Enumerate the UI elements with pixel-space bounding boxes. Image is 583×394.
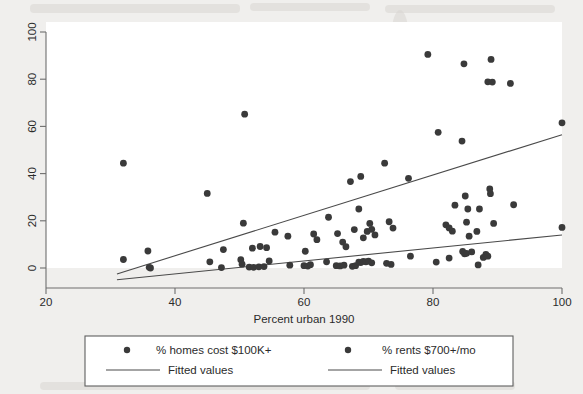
data-point xyxy=(463,219,470,226)
legend-label-homes-fit: Fitted values xyxy=(168,364,233,376)
y-tick-label: 0 xyxy=(26,265,38,271)
data-point xyxy=(357,173,364,180)
data-point xyxy=(507,80,514,87)
data-point xyxy=(351,226,358,233)
data-point xyxy=(240,220,247,227)
data-point xyxy=(476,206,483,213)
data-point xyxy=(487,190,494,197)
y-tick-label: 40 xyxy=(26,167,38,180)
data-point xyxy=(372,232,379,239)
legend-label-homes: % homes cost $100K+ xyxy=(156,344,272,356)
data-point xyxy=(466,233,473,240)
data-point xyxy=(559,224,566,231)
data-point xyxy=(435,129,442,136)
data-point xyxy=(462,193,469,200)
data-point xyxy=(307,261,314,268)
data-point xyxy=(461,60,468,67)
data-point xyxy=(405,175,412,182)
data-point xyxy=(559,119,566,126)
data-point xyxy=(510,201,517,208)
data-point xyxy=(390,225,397,232)
data-point xyxy=(347,178,354,185)
data-point xyxy=(261,263,268,270)
data-point xyxy=(459,138,466,145)
chart-legend: % homes cost $100K+ Fitted values % rent… xyxy=(85,336,513,386)
data-point xyxy=(475,262,482,269)
data-point xyxy=(147,265,154,272)
data-point xyxy=(386,218,393,225)
y-tick-label: 80 xyxy=(26,73,38,86)
data-point xyxy=(484,253,491,260)
x-axis-title: Percent urban 1990 xyxy=(253,313,354,325)
x-tick-label: 40 xyxy=(169,296,182,308)
data-point xyxy=(257,243,264,250)
data-point xyxy=(266,258,273,265)
data-point xyxy=(366,220,373,227)
legend-label-rents-fit: Fitted values xyxy=(390,364,455,376)
data-point xyxy=(433,259,440,266)
data-point xyxy=(355,206,362,213)
legend-marker-rents xyxy=(345,347,351,353)
data-point xyxy=(302,248,309,255)
data-point xyxy=(424,51,431,58)
data-point xyxy=(446,255,453,262)
scatter-plot-svg: 0 20 40 60 80 100 20 40 60 80 100 Percen… xyxy=(0,0,583,394)
data-point xyxy=(468,249,475,256)
data-point xyxy=(206,258,213,265)
data-point xyxy=(488,56,495,63)
data-point xyxy=(381,160,388,167)
data-point xyxy=(388,261,395,268)
data-point xyxy=(239,261,246,268)
data-point xyxy=(120,160,127,167)
x-tick-label: 100 xyxy=(552,296,571,308)
data-point xyxy=(334,230,341,237)
chart-figure: 0 20 40 60 80 100 20 40 60 80 100 Percen… xyxy=(0,0,583,394)
data-point xyxy=(286,262,293,269)
data-point xyxy=(464,206,471,213)
data-point xyxy=(218,264,225,271)
data-point xyxy=(220,246,227,253)
data-point xyxy=(263,244,270,251)
x-tick-label: 80 xyxy=(427,296,440,308)
data-point xyxy=(323,258,330,265)
data-point xyxy=(241,111,248,118)
y-tick-label: 60 xyxy=(26,120,38,133)
plot-area xyxy=(46,22,562,268)
data-point xyxy=(490,220,497,227)
data-point xyxy=(341,262,348,269)
data-point xyxy=(452,202,459,209)
data-point xyxy=(272,229,279,236)
y-tick-label: 100 xyxy=(26,22,38,41)
data-point xyxy=(325,214,332,221)
data-point xyxy=(407,253,414,260)
y-tick-label: 20 xyxy=(26,214,38,227)
data-point xyxy=(360,234,367,241)
data-point xyxy=(204,190,211,197)
data-point xyxy=(284,233,291,240)
data-point xyxy=(368,259,375,266)
data-point xyxy=(473,228,480,235)
data-point xyxy=(489,79,496,86)
data-point xyxy=(343,243,350,250)
x-tick-label: 20 xyxy=(40,296,53,308)
data-point xyxy=(120,256,127,263)
data-point xyxy=(249,245,256,252)
data-point xyxy=(449,228,456,235)
data-point xyxy=(314,236,321,243)
legend-marker-homes xyxy=(124,347,130,353)
data-point xyxy=(145,248,152,255)
legend-label-rents: % rents $700+/mo xyxy=(382,344,476,356)
x-tick-label: 60 xyxy=(298,296,311,308)
